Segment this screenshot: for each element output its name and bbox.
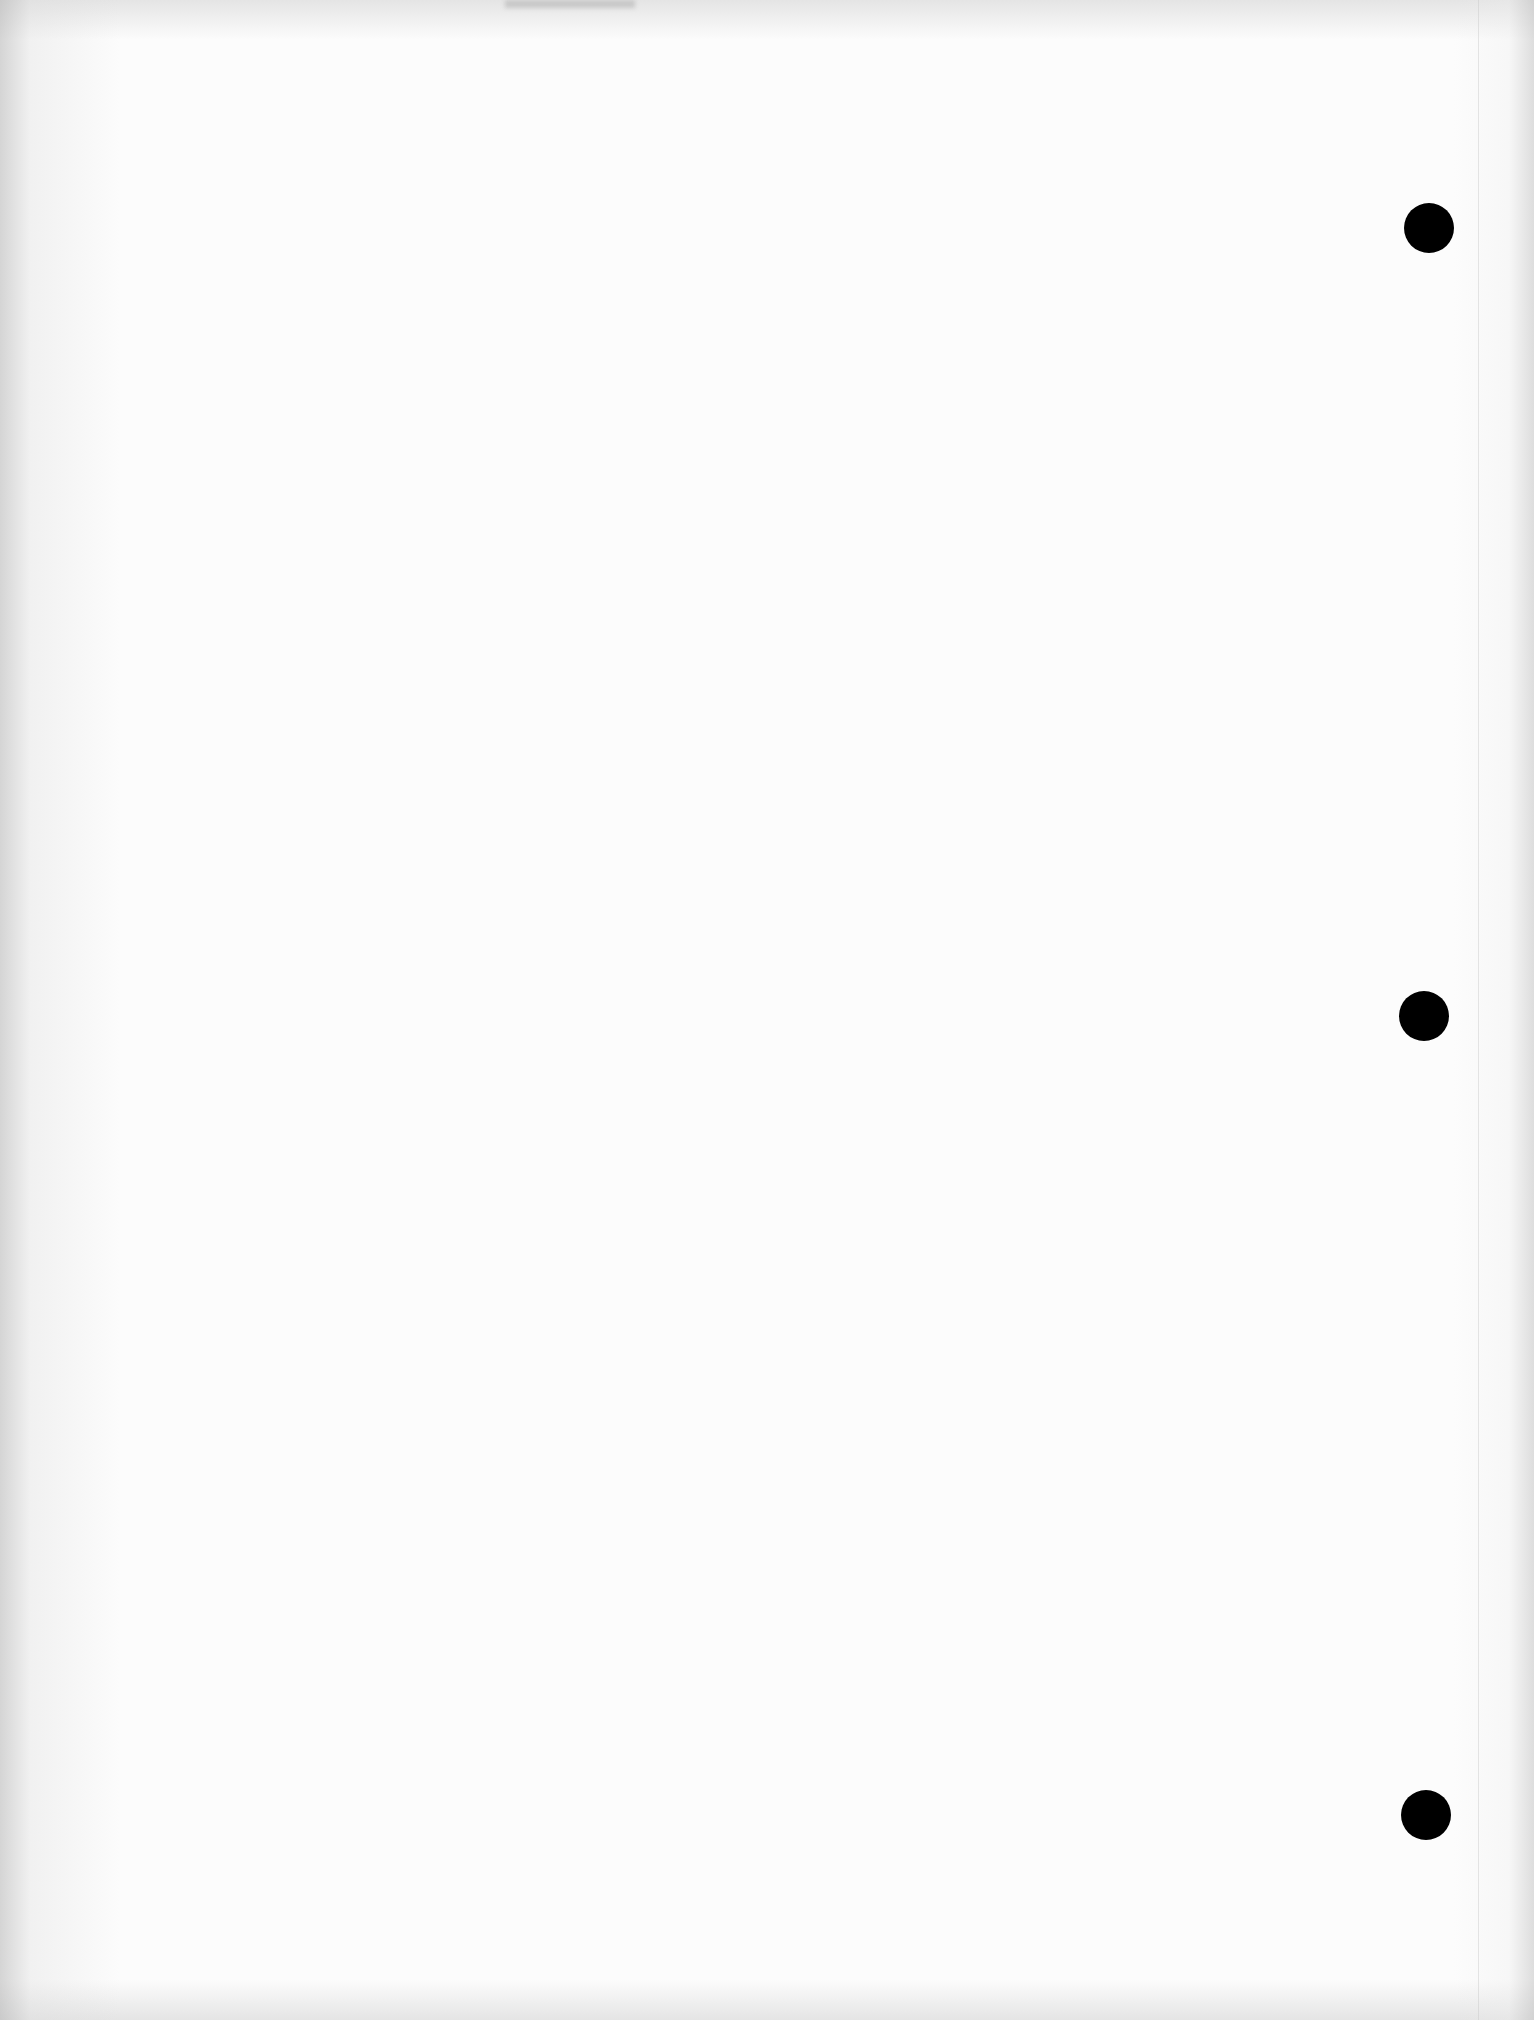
blank-page [0,0,1534,2020]
punch-hole-top [1404,203,1454,253]
scan-shadow [505,0,635,8]
punch-hole-middle [1399,991,1449,1041]
page-edge-line [1478,0,1479,2020]
punch-hole-bottom [1401,1790,1451,1840]
